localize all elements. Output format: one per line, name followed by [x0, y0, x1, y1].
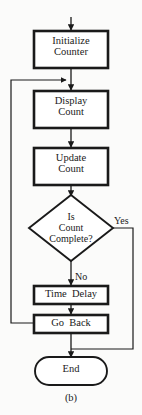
node-initialize-counter [34, 31, 108, 68]
flowchart-canvas [0, 0, 142, 415]
node-end [35, 357, 107, 385]
label-no-branch: No [75, 271, 87, 282]
flowchart-figure: InitializeCounter DisplayCount UpdateCou… [0, 0, 142, 415]
node-display-count [34, 91, 108, 128]
node-time-delay [34, 286, 108, 304]
node-decision-count-complete [29, 195, 113, 261]
node-update-count [34, 148, 108, 185]
label-yes-branch: Yes [114, 215, 129, 226]
node-go-back [34, 315, 108, 333]
figure-caption: (b) [0, 392, 142, 403]
